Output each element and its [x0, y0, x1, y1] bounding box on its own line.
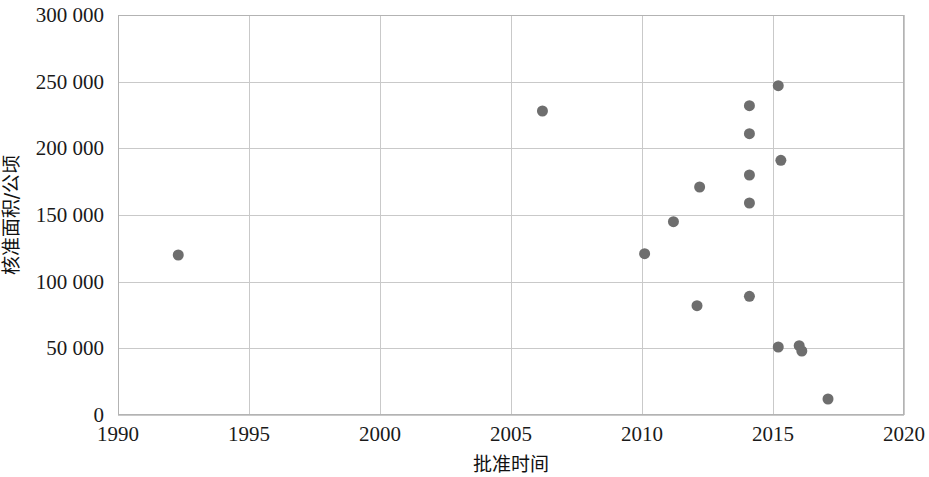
x-tick-label-5: 2015 — [752, 422, 794, 446]
data-point — [692, 300, 703, 311]
y-tick-label-1: 50 000 — [46, 336, 104, 360]
x-tick-label-2: 2000 — [359, 422, 401, 446]
x-axis-title: 批准时间 — [473, 453, 549, 475]
y-tick-label-5: 250 000 — [36, 70, 104, 94]
data-point — [773, 80, 784, 91]
x-tick-label-3: 2005 — [490, 422, 532, 446]
x-tick-label-4: 2010 — [621, 422, 663, 446]
x-tick-label-0: 1990 — [97, 422, 139, 446]
scatter-chart-figure: 050 000100 000150 000200 000250 000300 0… — [0, 0, 929, 477]
data-point — [173, 250, 184, 261]
data-point — [744, 170, 755, 181]
x-tick-label-6: 2020 — [883, 422, 925, 446]
y-tick-label-2: 100 000 — [36, 270, 104, 294]
data-point — [668, 216, 679, 227]
data-point — [744, 128, 755, 139]
data-point — [775, 155, 786, 166]
data-point — [537, 106, 548, 117]
data-point — [639, 248, 650, 259]
data-point — [744, 291, 755, 302]
data-point — [796, 346, 807, 357]
y-axis-title: 核准面积/公顷 — [0, 155, 22, 275]
y-tick-label-3: 150 000 — [36, 203, 104, 227]
data-point — [773, 342, 784, 353]
chart-background — [0, 0, 929, 477]
x-tick-label-1: 1995 — [228, 422, 270, 446]
data-point — [823, 394, 834, 405]
data-point — [744, 100, 755, 111]
data-point — [744, 198, 755, 209]
y-tick-label-4: 200 000 — [36, 136, 104, 160]
y-tick-label-6: 300 000 — [36, 3, 104, 27]
chart-canvas: 050 000100 000150 000200 000250 000300 0… — [0, 0, 929, 477]
data-point — [694, 182, 705, 193]
